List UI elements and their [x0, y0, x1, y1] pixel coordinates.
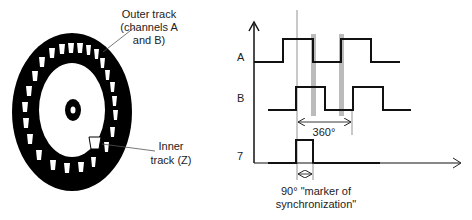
- outer-track-label-1: Outer track: [122, 8, 177, 20]
- inner-track-z-slot: [89, 137, 101, 149]
- channel-z-waveform: [268, 140, 380, 163]
- period-label: 360°: [313, 126, 336, 138]
- timing-diagram: [249, 10, 461, 180]
- channel-z-label: 7: [237, 150, 243, 162]
- marker-label-1: 90° "marker of: [281, 185, 352, 197]
- inner-track-label-2: track (Z): [151, 154, 192, 166]
- outer-track-label-2: (channels A: [120, 21, 178, 33]
- marker-label-2: synchronization": [276, 198, 356, 210]
- encoder-diagram: Outer track (channels A and B) Inner tra…: [0, 0, 472, 220]
- channel-a-label: A: [237, 51, 245, 63]
- outer-track-label-3: and B): [133, 34, 165, 46]
- disc-hub-hole: [71, 107, 76, 114]
- channel-b-label: B: [237, 92, 244, 104]
- inner-track-label-1: Inner: [158, 140, 183, 152]
- encoder-disc: [12, 27, 155, 191]
- channel-a-waveform: [254, 39, 400, 62]
